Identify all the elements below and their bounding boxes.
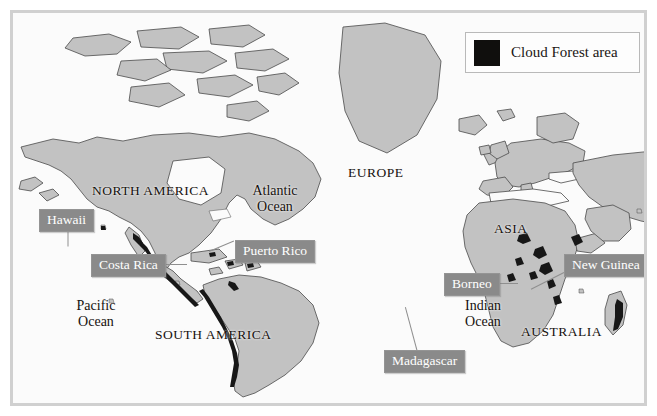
legend-swatch-cloud-forest: [474, 40, 500, 66]
callout-new-guinea[interactable]: New Guinea: [564, 254, 644, 277]
callout-hawaii[interactable]: Hawaii: [39, 209, 94, 232]
callout-costa-rica[interactable]: Costa Rica: [91, 254, 166, 277]
screenshot-root: Cloud Forest area NORTH AMERICA SOUTH AM…: [0, 0, 657, 416]
map-frame: Cloud Forest area NORTH AMERICA SOUTH AM…: [10, 10, 647, 406]
map-canvas[interactable]: Cloud Forest area NORTH AMERICA SOUTH AM…: [13, 13, 644, 403]
legend-box: Cloud Forest area: [465, 32, 640, 73]
callout-puerto-rico[interactable]: Puerto Rico: [235, 240, 315, 263]
legend-label: Cloud Forest area: [511, 44, 618, 61]
callout-borneo[interactable]: Borneo: [444, 273, 500, 296]
callout-madagascar[interactable]: Madagascar: [384, 350, 465, 373]
